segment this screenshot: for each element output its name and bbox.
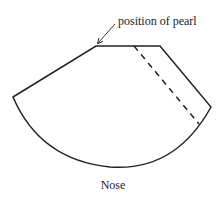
pearl-annotation: position of pearl [118, 14, 197, 28]
pattern-outline [13, 46, 211, 167]
nose-pattern-diagram: position of pearl Nose [0, 0, 224, 199]
dashed-fold-line [134, 46, 199, 124]
diagram-caption: Nose [101, 178, 126, 192]
pearl-arrow-icon [98, 24, 115, 43]
